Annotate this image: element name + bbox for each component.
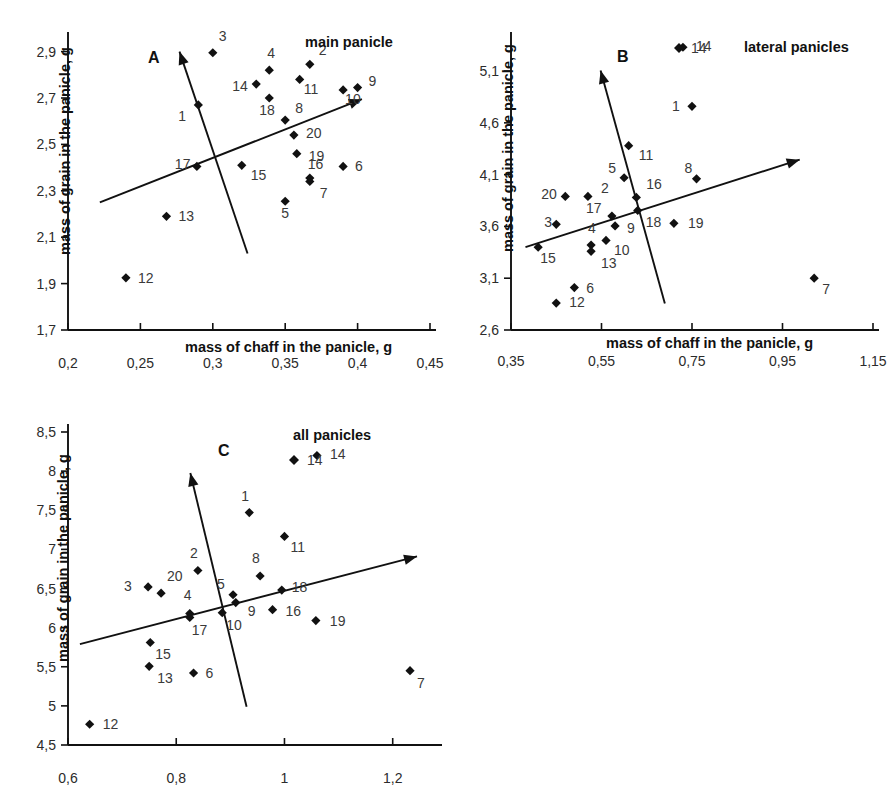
y-tick-label: 1,7: [37, 322, 57, 338]
pc-vector-arrowhead-pc1: [786, 159, 800, 169]
point-label-8: 8: [295, 100, 303, 116]
panel-c-yaxis-title: mass of grain in the panicle, g: [55, 454, 71, 662]
point-label-18: 18: [292, 579, 308, 595]
data-point: 8: [281, 100, 304, 125]
point-marker-13: [145, 662, 154, 671]
data-point: 2: [583, 180, 609, 201]
x-tick-label: 1,15: [859, 353, 886, 369]
data-point: 19: [669, 215, 703, 231]
point-label-1: 1: [178, 108, 186, 124]
x-tick-label: 0,4: [348, 355, 368, 371]
point-label-3: 3: [544, 214, 552, 230]
data-point: 11: [295, 75, 318, 98]
point-marker-1: [194, 100, 203, 109]
point-label-6: 6: [355, 158, 363, 174]
point-label-11: 11: [304, 81, 319, 97]
data-point: 4: [184, 587, 195, 619]
data-point: 11: [280, 532, 305, 556]
point-label-5: 5: [608, 160, 616, 176]
data-point: 9: [610, 220, 635, 236]
point-label-13: 13: [601, 255, 617, 271]
point-label-5: 5: [281, 205, 289, 221]
data-point: 17: [175, 156, 202, 172]
data-point: 18: [633, 206, 661, 231]
panel-b-points: 1234567891011121314151617181920: [534, 38, 831, 310]
x-tick-label: 0,45: [416, 355, 443, 371]
point-marker-13: [586, 247, 595, 256]
point-label-4: 4: [184, 587, 192, 603]
point-label-17: 17: [192, 622, 208, 638]
pc-vector-arrowhead-pc1: [403, 555, 417, 565]
point-label-1: 1: [672, 98, 680, 114]
point-marker-20: [561, 192, 570, 201]
data-point: 16: [268, 603, 301, 619]
point-label-19: 19: [309, 148, 325, 164]
point-label-4: 4: [588, 220, 596, 236]
point-marker-8: [692, 174, 701, 183]
point-marker-2: [193, 566, 202, 575]
data-point: 12: [552, 294, 585, 310]
data-point: 20: [289, 125, 321, 141]
data-point: 20: [541, 186, 570, 202]
pc-vector-arrowhead-pc2: [179, 52, 189, 66]
point-label-9: 9: [248, 603, 256, 619]
data-point: 15: [237, 161, 266, 184]
point-label-3: 3: [124, 578, 132, 594]
y-tick-label: 5,1: [480, 63, 500, 79]
y-tick-label: 2,9: [37, 44, 57, 60]
point-label-7: 7: [417, 675, 425, 691]
point-marker-19: [311, 616, 320, 625]
panel-c-letter: C: [218, 442, 230, 459]
point-label-16: 16: [646, 176, 662, 192]
point-label-2: 2: [190, 545, 198, 561]
data-point: 19: [292, 148, 324, 164]
point-label-16: 16: [286, 603, 302, 619]
panel-b-yaxis-title: mass of grain in the panicle, g: [500, 44, 516, 252]
x-tick-label: 0,75: [678, 353, 705, 369]
y-tick-label: 4,1: [480, 167, 500, 183]
x-tick-label: 0,2: [58, 355, 78, 371]
point-label-20: 20: [541, 186, 557, 202]
data-point: 3: [124, 578, 153, 594]
data-point: 9: [353, 73, 377, 93]
point-marker-7: [810, 274, 819, 283]
y-tick-label: 2,6: [480, 322, 500, 338]
point-label-14: 14: [330, 446, 346, 462]
point-marker-6: [189, 668, 198, 677]
point-marker-20: [156, 589, 165, 598]
panel-b-lateral-panicles: 2,63,13,64,14,65,10,350,550,750,951,15 1…: [445, 0, 889, 400]
point-label-14: 14: [232, 78, 248, 94]
data-point: 4: [265, 45, 276, 75]
point-marker-13: [162, 212, 171, 221]
point-marker-10: [601, 236, 610, 245]
panel-b-letter: B: [617, 48, 629, 65]
point-marker-11: [280, 532, 289, 541]
x-tick-label: 0,8: [167, 770, 187, 786]
point-label-19: 19: [688, 215, 704, 231]
data-point: 2: [190, 545, 203, 576]
point-marker-3: [143, 582, 152, 591]
point-marker-19: [292, 149, 301, 158]
point-label-5: 5: [217, 576, 225, 592]
panel-c-title: all panicles: [293, 427, 371, 443]
point-marker-9: [610, 221, 619, 230]
point-marker-12: [85, 720, 94, 729]
panel-a-yaxis-title: mass of grain in the panicle, g: [57, 47, 73, 255]
x-tick-label: 1,2: [383, 770, 403, 786]
point-label-6: 6: [586, 280, 594, 296]
point-label-19: 19: [330, 613, 346, 629]
data-point: 13: [162, 208, 194, 224]
data-point: 10: [218, 608, 242, 633]
point-label-15: 15: [540, 250, 556, 266]
point-label-15: 15: [155, 646, 171, 662]
data-point: 13: [586, 247, 616, 272]
panel-b-vectors: [525, 71, 799, 304]
point-marker-8: [281, 115, 290, 124]
point-label-18: 18: [259, 102, 275, 118]
data-point: 8: [252, 550, 265, 581]
panel-c-legend: 14: [289, 452, 323, 468]
x-tick-label: 0,25: [127, 355, 154, 371]
point-label-1: 1: [241, 488, 249, 504]
data-point: 3: [208, 28, 227, 58]
y-tick-label: 2,5: [37, 136, 57, 152]
